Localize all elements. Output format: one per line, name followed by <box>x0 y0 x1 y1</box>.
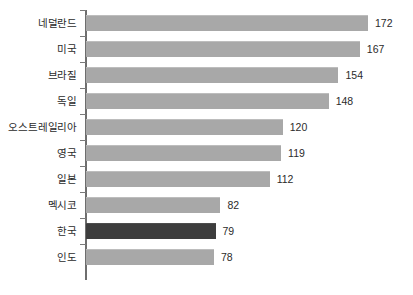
axis-tick <box>80 218 86 219</box>
bar-rows-container: 네덜란드172미국167브라질154독일148오스트레일리아120영국119일본… <box>0 10 413 270</box>
category-label: 한국 <box>57 218 77 244</box>
bar-row: 한국79 <box>0 218 413 244</box>
category-label: 영국 <box>57 140 77 166</box>
axis-tick <box>80 140 86 141</box>
bar-track: 120 <box>86 119 413 135</box>
bar-row: 일본112 <box>0 166 413 192</box>
category-label: 독일 <box>57 88 77 114</box>
axis-tick <box>80 114 86 115</box>
bar-track: 172 <box>86 15 413 31</box>
bar-row: 독일148 <box>0 88 413 114</box>
bar-track: 79 <box>86 223 413 239</box>
bar <box>86 197 220 213</box>
value-label: 79 <box>223 223 235 239</box>
bar-row: 인도78 <box>0 244 413 270</box>
bar-row: 브라질154 <box>0 62 413 88</box>
bar <box>86 41 360 57</box>
axis-tick <box>80 192 86 193</box>
bar <box>86 15 368 31</box>
category-label: 인도 <box>57 244 77 270</box>
category-label: 미국 <box>57 36 77 62</box>
bar-row: 네덜란드172 <box>0 10 413 36</box>
value-label: 82 <box>227 197 239 213</box>
axis-tick <box>80 62 86 63</box>
value-label: 112 <box>277 171 294 187</box>
bar <box>86 145 281 161</box>
axis-tick <box>80 166 86 167</box>
axis-tick <box>80 36 86 37</box>
axis-tick <box>80 244 86 245</box>
bar <box>86 249 214 265</box>
category-label: 네덜란드 <box>38 10 77 36</box>
bar <box>86 171 270 187</box>
value-label: 172 <box>375 15 393 31</box>
bar-row: 오스트레일리아120 <box>0 114 413 140</box>
bar-track: 167 <box>86 41 413 57</box>
bar-track: 148 <box>86 93 413 109</box>
bar <box>86 93 329 109</box>
bar-track: 82 <box>86 197 413 213</box>
value-label: 167 <box>367 41 385 57</box>
bar-track: 119 <box>86 145 413 161</box>
bar-row: 미국167 <box>0 36 413 62</box>
axis-tick <box>80 88 86 89</box>
value-label: 120 <box>290 119 308 135</box>
value-label: 78 <box>221 249 233 265</box>
bar-track: 78 <box>86 249 413 265</box>
category-label: 오스트레일리아 <box>8 114 77 140</box>
bar-row: 영국119 <box>0 140 413 166</box>
bar-row: 멕시코82 <box>0 192 413 218</box>
bar-highlighted <box>86 223 216 239</box>
category-label: 일본 <box>57 166 77 192</box>
value-label: 119 <box>288 145 305 161</box>
axis-tick <box>80 10 86 11</box>
category-label: 멕시코 <box>48 192 77 218</box>
value-label: 148 <box>336 93 354 109</box>
bar <box>86 119 283 135</box>
bar-track: 154 <box>86 67 413 83</box>
bar-track: 112 <box>86 171 413 187</box>
category-label: 브라질 <box>48 62 77 88</box>
bar <box>86 67 338 83</box>
value-label: 154 <box>345 67 363 83</box>
bar-chart: 네덜란드172미국167브라질154독일148오스트레일리아120영국119일본… <box>0 0 413 295</box>
